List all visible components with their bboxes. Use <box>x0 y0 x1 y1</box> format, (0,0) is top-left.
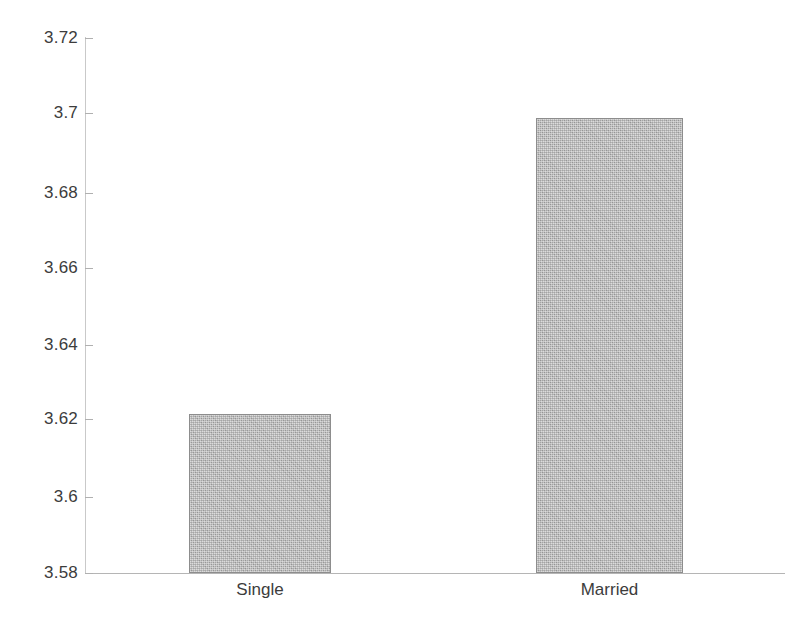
y-axis-tick-label-wrap: 3.6 <box>0 488 78 505</box>
y-axis-tick-label-wrap: 3.72 <box>0 29 78 46</box>
y-axis-tick-label-wrap: 3.64 <box>0 336 78 353</box>
x-axis-line <box>85 573 785 574</box>
y-axis-tick <box>85 38 93 39</box>
y-axis-tick-label-wrap: 3.7 <box>0 104 78 121</box>
y-axis-tick-label: 3.62 <box>6 410 78 427</box>
y-axis-tick <box>85 113 93 114</box>
x-axis-category-label: Single <box>189 580 331 600</box>
y-axis-tick-label: 3.58 <box>6 564 78 581</box>
y-axis-tick-label: 3.72 <box>6 29 78 46</box>
y-axis-tick <box>85 345 93 346</box>
y-axis-tick <box>85 268 93 269</box>
y-axis-tick <box>85 573 93 574</box>
y-axis-tick <box>85 497 93 498</box>
y-axis-tick-label-wrap: 3.68 <box>0 184 78 201</box>
bar-single <box>189 414 331 573</box>
y-axis-line <box>85 37 86 574</box>
bar-chart: 3.723.73.683.663.643.623.63.58 SingleMar… <box>0 0 808 627</box>
y-axis-tick-label: 3.66 <box>6 259 78 276</box>
y-axis-tick-label: 3.64 <box>6 336 78 353</box>
bar-married <box>536 118 683 573</box>
y-axis-tick-label: 3.68 <box>6 184 78 201</box>
y-axis-tick-label: 3.7 <box>6 104 78 121</box>
y-axis-tick <box>85 193 93 194</box>
x-axis-category-label: Married <box>536 580 683 600</box>
y-axis-tick <box>85 419 93 420</box>
y-axis-tick-label-wrap: 3.58 <box>0 564 78 581</box>
y-axis-tick-label-wrap: 3.62 <box>0 410 78 427</box>
y-axis-tick-label: 3.6 <box>6 488 78 505</box>
y-axis-tick-label-wrap: 3.66 <box>0 259 78 276</box>
